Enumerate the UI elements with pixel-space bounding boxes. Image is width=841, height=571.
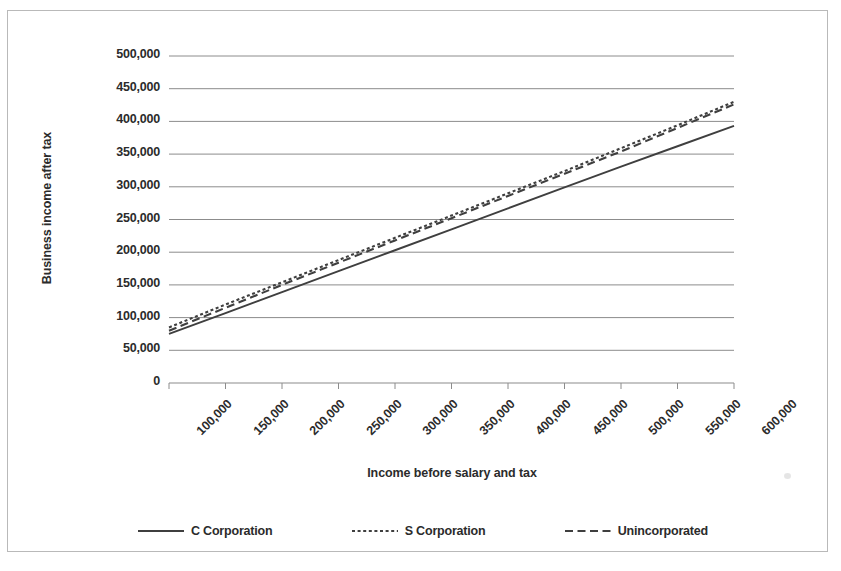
y-tick-label: 0 (65, 374, 160, 388)
line-chart: 050,000100,000150,000200,000250,000300,0… (8, 11, 829, 553)
y-tick-label: 250,000 (65, 211, 160, 225)
legend-entry[interactable]: C Corporation (138, 524, 272, 538)
y-tick-label: 100,000 (65, 309, 160, 323)
figure-frame: 050,000100,000150,000200,000250,000300,0… (7, 10, 828, 552)
y-tick-label: 350,000 (65, 145, 160, 159)
x-axis-tickmarks (169, 383, 734, 389)
series-line (169, 102, 734, 328)
series-lines (169, 102, 734, 334)
series-line (169, 126, 734, 334)
legend-label: Unincorporated (618, 524, 708, 538)
legend-line-swatch-solid (138, 526, 184, 536)
y-tick-label: 450,000 (65, 80, 160, 94)
y-tick-label: 300,000 (65, 178, 160, 192)
legend-entry[interactable]: Unincorporated (565, 524, 708, 538)
scan-artifact (784, 473, 791, 479)
y-axis-title: Business income after tax (40, 108, 54, 308)
legend-line-swatch-dashed (565, 526, 611, 536)
gridlines (169, 56, 734, 383)
chart-legend: C CorporationS CorporationUnincorporated (138, 516, 708, 546)
x-axis-title: Income before salary and tax (169, 466, 735, 480)
y-tick-label: 150,000 (65, 276, 160, 290)
legend-entry[interactable]: S Corporation (352, 524, 486, 538)
legend-label: S Corporation (405, 524, 486, 538)
y-tick-label: 500,000 (65, 47, 160, 61)
y-tick-label: 50,000 (65, 341, 160, 355)
y-tick-label: 400,000 (65, 112, 160, 126)
y-tick-label: 200,000 (65, 243, 160, 257)
legend-line-swatch-dotted (352, 526, 398, 536)
legend-label: C Corporation (191, 524, 272, 538)
series-line (169, 104, 734, 330)
